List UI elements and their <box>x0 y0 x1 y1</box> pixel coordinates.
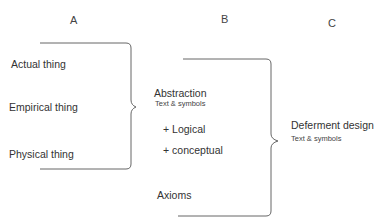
axioms-label: Axioms <box>157 190 191 201</box>
brace-b-to-c <box>178 59 278 216</box>
column-a-header: A <box>70 15 77 26</box>
deferment-design-subtitle: Text & symbols <box>291 135 341 143</box>
conceptual-item: + conceptual <box>163 145 223 156</box>
abstraction-title: Abstraction <box>154 88 207 99</box>
logical-item: + Logical <box>163 124 205 135</box>
abstraction-subtitle: Text & symbols <box>155 100 205 108</box>
deferment-design-title: Deferment design <box>291 120 374 131</box>
column-c-header: C <box>328 18 336 29</box>
actual-thing-label: Actual thing <box>11 59 66 70</box>
empirical-thing-label: Empirical thing <box>9 102 78 113</box>
column-b-header: B <box>221 14 228 25</box>
physical-thing-label: Physical thing <box>9 149 74 160</box>
